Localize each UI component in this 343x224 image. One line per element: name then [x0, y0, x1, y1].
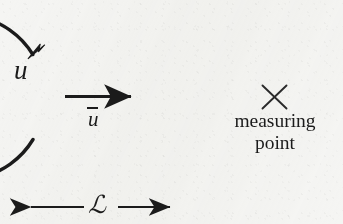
eddy-circle-arc [0, 15, 45, 179]
measuring-point-label: measuring point [215, 110, 335, 154]
mean-velocity-label-text: u [88, 107, 99, 130]
figure-canvas: u u ℒ measuring point [0, 0, 343, 224]
mean-velocity-label: u [88, 107, 99, 130]
measuring-point-x-icon [263, 86, 287, 109]
eddy-arc-path [0, 15, 33, 179]
length-scale-label: ℒ [88, 192, 107, 217]
fluctuating-velocity-label: u [14, 57, 28, 84]
measuring-point-label-line2: point [215, 132, 335, 154]
measuring-point-label-line1: measuring [215, 110, 335, 132]
